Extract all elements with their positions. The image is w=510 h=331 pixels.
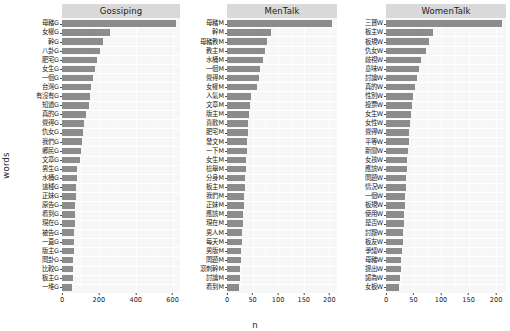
bar-row xyxy=(227,201,337,210)
bar xyxy=(227,93,251,100)
bar-row xyxy=(386,37,506,46)
bar xyxy=(62,202,75,209)
bar xyxy=(62,248,74,255)
plot-panel xyxy=(62,18,180,293)
bar xyxy=(386,275,400,282)
y-tick-label: 原告G xyxy=(12,201,62,210)
bar-row xyxy=(227,137,337,146)
bar xyxy=(386,284,399,291)
y-tick-label: 檢舉M xyxy=(185,165,227,174)
y-tick-label: 現在G xyxy=(12,219,62,228)
bar-row xyxy=(227,283,337,292)
y-tick-label: 提出W xyxy=(342,265,386,274)
y-tick-label: 真的G xyxy=(12,110,62,119)
bar xyxy=(227,202,244,209)
bar xyxy=(386,175,406,182)
bar xyxy=(386,20,502,27)
y-tick-label: 男人M xyxy=(185,228,227,237)
y-tick-label: 女生W xyxy=(342,110,386,119)
bar xyxy=(62,220,75,227)
bar xyxy=(62,138,82,145)
x-tick-mark xyxy=(385,293,386,295)
bar-row xyxy=(386,210,506,219)
bar-row xyxy=(62,28,180,37)
y-tick-label: 問題M xyxy=(185,255,227,264)
y-tick-label: 應該M xyxy=(185,210,227,219)
bar xyxy=(62,193,76,200)
x-tick-mark xyxy=(172,293,173,295)
bar-row xyxy=(227,74,337,83)
y-tick-label: 討厭W xyxy=(342,228,386,237)
bar-row xyxy=(62,92,180,101)
y-tick-label: 文章M xyxy=(185,101,227,110)
y-tick-label: 八卦G xyxy=(12,46,62,55)
bar-row xyxy=(386,46,506,55)
bar xyxy=(386,166,407,173)
bar xyxy=(386,257,401,264)
bar xyxy=(62,175,77,182)
bar xyxy=(62,266,73,273)
y-tick-label: 仇女G xyxy=(12,128,62,137)
bar-row xyxy=(62,46,180,55)
bar-row xyxy=(227,37,337,46)
bar xyxy=(62,275,73,282)
y-tick-label: 被告G xyxy=(12,228,62,237)
y-tick-label: 滾刺幹M xyxy=(185,265,227,274)
bar xyxy=(227,248,241,255)
bar-row xyxy=(62,246,180,255)
bar-row xyxy=(386,137,506,146)
y-tick-label: 覺得M xyxy=(185,74,227,83)
bar-row xyxy=(386,64,506,73)
x-axis-scale: 050100150200 xyxy=(386,293,506,309)
y-tick-label: 正妹M xyxy=(185,201,227,210)
bar-row xyxy=(227,110,337,119)
x-axis: 0200400600 xyxy=(12,293,180,309)
bar-row xyxy=(386,19,506,28)
bar xyxy=(386,239,403,246)
y-tick-label: 比較G xyxy=(12,265,62,274)
bar xyxy=(227,157,246,164)
x-axis-spacer xyxy=(185,293,227,309)
y-tick-label: 分身M xyxy=(185,174,227,183)
bar-row xyxy=(227,119,337,128)
bar xyxy=(62,239,74,246)
y-tick-label: 母豬W xyxy=(342,255,386,264)
bar xyxy=(386,120,410,127)
bar xyxy=(62,93,90,100)
bar-row xyxy=(227,265,337,274)
y-tick-label: 看到G xyxy=(12,210,62,219)
y-tick-label: 歧視W xyxy=(342,55,386,64)
bar-row xyxy=(227,92,337,101)
y-tick-label: 認為W xyxy=(342,274,386,283)
y-tick-label: 喜歡M xyxy=(185,119,227,128)
bar-row xyxy=(62,228,180,237)
y-tick-label: 女權G xyxy=(12,28,62,37)
bar xyxy=(386,66,419,73)
bar xyxy=(62,111,86,118)
y-tick-label: 肥宅M xyxy=(185,128,227,137)
x-tick-label: 100 xyxy=(435,293,448,304)
y-tick-label: 母豬G xyxy=(12,19,62,28)
bar-row xyxy=(227,101,337,110)
bar-row xyxy=(227,28,337,37)
x-tick-mark xyxy=(413,293,414,295)
y-tick-label: 覺得G xyxy=(12,119,62,128)
y-tick-label: 一個M xyxy=(185,64,227,73)
bar-row xyxy=(386,83,506,92)
bar-row xyxy=(62,165,180,174)
bar-row xyxy=(62,74,180,83)
bar xyxy=(62,120,84,127)
x-tick-mark xyxy=(468,293,469,295)
bar-row xyxy=(62,101,180,110)
bar xyxy=(62,66,95,73)
bar xyxy=(62,57,97,64)
y-tick-label: 母豬M xyxy=(185,19,227,28)
y-tick-label: 現在M xyxy=(185,219,227,228)
bar xyxy=(227,66,260,73)
y-tick-label: 板規W xyxy=(342,201,386,210)
y-tick-label: 女生G xyxy=(12,64,62,73)
bar-row xyxy=(62,283,180,292)
y-tick-label: 女權M xyxy=(185,83,227,92)
x-axis-spacer xyxy=(342,293,386,309)
y-tick-label: 我們M xyxy=(185,192,227,201)
